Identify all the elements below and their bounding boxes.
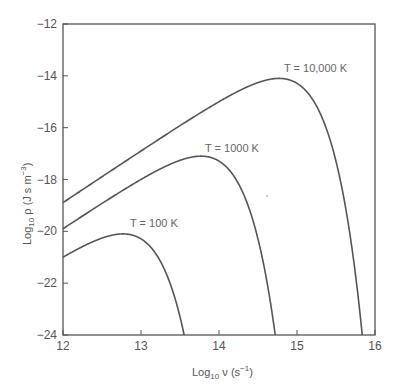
curve-label-100k: T = 100 K — [130, 217, 178, 229]
x-tick-label: 15 — [290, 339, 304, 353]
x-axis-label: Log10 ν (s−1) — [192, 364, 253, 381]
blackbody-chart: −12−14−16−18−20−22−24 1213141516 T = 10,… — [0, 0, 398, 389]
y-tick-label: −12 — [37, 17, 58, 31]
y-tick-label: −22 — [37, 276, 58, 290]
y-axis-label: Log10 ρ (J s m−3) — [19, 163, 36, 245]
curve-label-1000k: T = 1000 K — [205, 142, 260, 154]
y-tick-label: −16 — [37, 121, 58, 135]
x-tick-label: 16 — [368, 339, 382, 353]
y-tick-label: −24 — [37, 328, 58, 342]
curve-10000k — [63, 78, 365, 361]
curve-1000k — [63, 156, 279, 361]
curves — [63, 78, 365, 361]
y-tick-label: −18 — [37, 173, 58, 187]
x-tick-label: 12 — [56, 339, 70, 353]
x-axis-ticks: 1213141516 — [56, 330, 382, 353]
y-tick-label: −20 — [37, 224, 58, 238]
x-tick-label: 14 — [212, 339, 226, 353]
x-tick-label: 13 — [134, 339, 148, 353]
y-tick-label: −14 — [37, 69, 58, 83]
stray-dot — [266, 195, 268, 197]
curve-100k — [63, 234, 189, 361]
curve-label-10000k: T = 10,000 K — [284, 62, 348, 74]
